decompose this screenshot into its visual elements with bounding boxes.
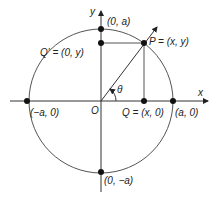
point-left — [24, 98, 30, 104]
origin-label: O — [91, 105, 99, 116]
point-top — [98, 26, 104, 32]
y-axis-label: y — [89, 6, 96, 17]
point-q — [141, 98, 147, 104]
circle-diagram: y x O θ (0, a) P = (x, y) Q′ = (0, y) (−… — [0, 0, 213, 201]
label-top: (0, a) — [107, 16, 130, 27]
angle-arc — [110, 89, 116, 101]
point-right — [170, 98, 176, 104]
point-qprime — [98, 40, 104, 46]
label-left: (−a, 0) — [30, 107, 59, 118]
point-p — [141, 40, 147, 46]
label-bottom: (0, −a) — [104, 175, 133, 186]
label-right: (a, 0) — [175, 107, 198, 118]
label-qprime: Q′ = (0, y) — [40, 47, 84, 58]
label-p: P = (x, y) — [149, 36, 189, 47]
angle-label: θ — [117, 84, 123, 95]
x-axis-label: x — [197, 87, 204, 98]
label-q: Q = (x, 0) — [122, 107, 164, 118]
